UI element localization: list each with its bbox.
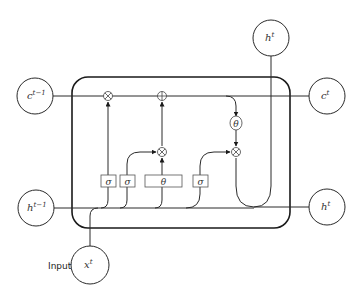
input-gate-arrow xyxy=(127,152,156,175)
node-x-in: xt xyxy=(71,246,109,284)
input-label: Input xyxy=(48,261,72,271)
node-c-prev: ct−1 xyxy=(17,78,53,114)
svg-text:σ: σ xyxy=(105,177,112,187)
input-multiply-op xyxy=(158,148,167,157)
cell-add-op xyxy=(158,92,167,101)
node-c-next: ct xyxy=(309,78,345,114)
svg-text:θ: θ xyxy=(233,119,239,129)
input-wire xyxy=(90,208,98,246)
output-gate-box: σ xyxy=(193,175,208,187)
input-gate-box: σ xyxy=(120,175,135,187)
svg-text:σ: σ xyxy=(124,177,131,187)
cell-to-tanh-arrow xyxy=(226,96,236,116)
output-gate-wire-lower xyxy=(186,187,200,208)
forget-gate-box: σ xyxy=(101,175,116,187)
candidate-wire-lower xyxy=(155,187,162,208)
node-h-out-right: ht xyxy=(309,189,345,225)
output-multiply-op xyxy=(232,148,241,157)
node-h-out-top: ht xyxy=(253,20,289,56)
output-gate-arrow xyxy=(200,152,230,175)
candidate-gate-box: θ xyxy=(145,175,182,187)
forget-gate-wire xyxy=(101,187,108,208)
forget-multiply-op xyxy=(104,92,113,101)
cell-tanh-op: θ xyxy=(230,116,242,130)
hidden-output-loop xyxy=(236,56,271,207)
svg-text:σ: σ xyxy=(197,177,204,187)
node-h-prev: ht−1 xyxy=(18,190,54,226)
input-gate-wire-lower xyxy=(120,187,127,208)
lstm-diagram: θ σ σ θ σ ct−1 ct ht ht−1 ht xt Inpu xyxy=(0,0,364,301)
svg-text:θ: θ xyxy=(161,177,167,187)
cell-boundary xyxy=(72,77,290,228)
